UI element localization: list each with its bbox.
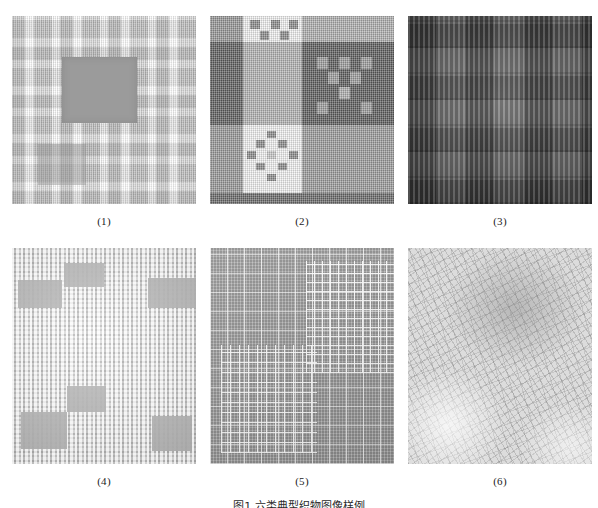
panel-grid: (1) — [0, 0, 598, 487]
defect-rectangle — [62, 57, 137, 123]
panel-row-bottom: (4) (5) (6) — [0, 227, 598, 487]
panel-cell-4: (4) — [12, 248, 196, 487]
panel-label-6: (6) — [493, 476, 507, 487]
figure-caption: 图1 六类典型织物图像样例 — [0, 497, 598, 508]
panel-cell-2: (2) — [210, 16, 394, 227]
fabric-sample-5[interactable] — [210, 248, 394, 464]
fabric-sample-2[interactable] — [210, 16, 394, 204]
panel-label-2: (2) — [295, 216, 309, 227]
shade-layer — [408, 16, 592, 204]
secondary-patch — [38, 144, 86, 185]
panel-cell-6: (6) — [408, 248, 592, 487]
panel-label-5: (5) — [295, 476, 309, 487]
fabric-sample-6[interactable] — [408, 248, 592, 464]
shade-layer — [408, 248, 592, 464]
panel-label-3: (3) — [493, 216, 507, 227]
panel-label-1: (1) — [97, 216, 111, 227]
fabric-sample-3[interactable] — [408, 16, 592, 204]
shade-layer — [210, 248, 394, 464]
panel-label-4: (4) — [97, 476, 111, 487]
panel-cell-3: (3) — [408, 16, 592, 227]
panel-row-top: (1) — [0, 0, 598, 227]
shade-layer — [12, 248, 196, 464]
panel-cell-5: (5) — [210, 248, 394, 487]
weave-noise-layer — [210, 16, 394, 204]
panel-cell-1: (1) — [12, 16, 196, 227]
fabric-sample-1[interactable] — [12, 16, 196, 204]
fabric-sample-4[interactable] — [12, 248, 196, 464]
figure-container: (1) — [0, 0, 598, 508]
